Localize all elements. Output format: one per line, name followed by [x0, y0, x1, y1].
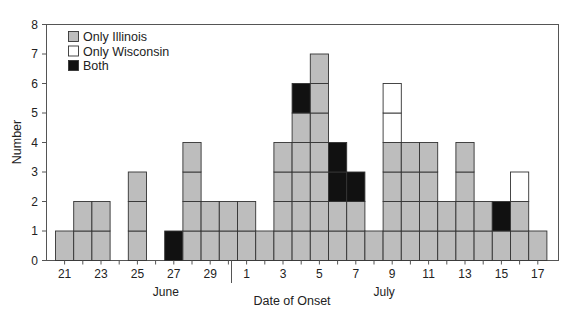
bar-cell-only-illinois [201, 231, 219, 261]
bar-cell-only-illinois [383, 143, 401, 173]
bar-cell-only-illinois [292, 113, 310, 143]
x-tick-label: 3 [280, 267, 287, 281]
bar-cell-only-illinois [274, 172, 292, 202]
y-tick-label: 6 [31, 77, 38, 91]
bar-cell-both [165, 231, 183, 261]
bar-cell-only-illinois [420, 143, 438, 173]
bar-cell-only-illinois [183, 172, 201, 202]
bar-cell-only-illinois [292, 172, 310, 202]
y-tick-label: 5 [31, 106, 38, 120]
bar-cell-both [347, 172, 365, 202]
bar-cell-only-illinois [420, 172, 438, 202]
bar-cell-only-illinois [365, 231, 383, 261]
y-tick-label: 3 [31, 165, 38, 179]
bar-cell-only-illinois [74, 231, 92, 261]
bar-cell-only-illinois [310, 143, 328, 173]
bar-cell-only-illinois [128, 202, 146, 232]
bar-cell-only-illinois [292, 231, 310, 261]
x-tick-label: 9 [389, 267, 396, 281]
bar-cell-only-illinois [401, 172, 419, 202]
bar-cell-only-illinois [219, 202, 237, 232]
legend-label: Both [83, 59, 109, 73]
bar-cell-only-illinois [474, 231, 492, 261]
legend-swatch [69, 32, 79, 42]
x-tick-label: 1 [243, 267, 250, 281]
bar-cell-only-illinois [511, 202, 529, 232]
y-tick-label: 0 [31, 254, 38, 268]
bar-cell-only-illinois [310, 231, 328, 261]
bar-cell-only-illinois [529, 231, 547, 261]
month-label: June [153, 285, 179, 299]
bar-cell-only-illinois [238, 202, 256, 232]
legend-swatch [69, 61, 79, 71]
bar-cell-only-illinois [438, 231, 456, 261]
bar-cell-only-illinois [201, 202, 219, 232]
bar-cell-only-illinois [401, 231, 419, 261]
x-tick-label: 13 [458, 267, 472, 281]
bar-cell-only-illinois [329, 231, 347, 261]
legend-label: Only Illinois [83, 30, 147, 44]
bar-cell-only-illinois [128, 172, 146, 202]
bars [56, 54, 547, 261]
legend: Only IllinoisOnly WisconsinBoth [69, 30, 170, 73]
y-tick-label: 7 [31, 47, 38, 61]
x-tick-label: 17 [531, 267, 545, 281]
legend-label: Only Wisconsin [83, 45, 169, 59]
bar-cell-only-illinois [511, 231, 529, 261]
bar-cell-only-illinois [456, 143, 474, 173]
bar-cell-only-illinois [383, 231, 401, 261]
bar-cell-only-illinois [92, 202, 110, 232]
bar-cell-only-illinois [256, 231, 274, 261]
bar-cell-only-illinois [128, 231, 146, 261]
bar-cell-only-illinois [347, 231, 365, 261]
bar-cell-both [292, 84, 310, 114]
bar-cell-only-illinois [420, 202, 438, 232]
y-tick-label: 1 [31, 224, 38, 238]
x-tick-label: 23 [94, 267, 108, 281]
y-tick-label: 4 [31, 136, 38, 150]
bar-cell-only-illinois [56, 231, 74, 261]
bar-cell-only-wisconsin [511, 172, 529, 202]
y-tick-label: 2 [31, 195, 38, 209]
bar-cell-only-illinois [310, 113, 328, 143]
x-tick-label: 25 [131, 267, 145, 281]
bar-cell-only-illinois [92, 231, 110, 261]
bar-cell-only-illinois [456, 172, 474, 202]
bar-cell-only-illinois [492, 231, 510, 261]
bar-cell-only-illinois [438, 202, 456, 232]
x-tick-label: 5 [316, 267, 323, 281]
bar-cell-both [329, 172, 347, 202]
bar-cell-only-illinois [347, 202, 365, 232]
bar-cell-only-illinois [274, 202, 292, 232]
bar-cell-only-illinois [310, 84, 328, 114]
bar-cell-only-wisconsin [383, 84, 401, 114]
x-tick-label: 15 [495, 267, 509, 281]
bar-cell-only-illinois [456, 231, 474, 261]
bar-cell-only-illinois [238, 231, 256, 261]
x-axis-title: Date of Onset [253, 294, 331, 308]
bar-cell-only-illinois [310, 202, 328, 232]
x-tick-label: 11 [422, 267, 435, 281]
bar-cell-only-illinois [183, 143, 201, 173]
bar-cell-only-illinois [292, 143, 310, 173]
bar-cell-only-illinois [310, 54, 328, 84]
bar-cell-only-illinois [183, 202, 201, 232]
x-tick-label: 27 [167, 267, 181, 281]
bar-cell-only-illinois [274, 143, 292, 173]
bar-cell-only-illinois [401, 143, 419, 173]
bar-cell-only-illinois [310, 172, 328, 202]
bar-cell-only-illinois [383, 172, 401, 202]
y-axis-title: Number [10, 120, 24, 164]
bar-cell-only-illinois [456, 202, 474, 232]
x-tick-label: 21 [58, 267, 72, 281]
bar-cell-only-illinois [274, 231, 292, 261]
y-axis: 012345678 [31, 18, 46, 268]
x-tick-label: 29 [204, 267, 218, 281]
bar-cell-only-illinois [383, 202, 401, 232]
bar-cell-only-illinois [219, 231, 237, 261]
legend-swatch [69, 46, 79, 56]
bar-cell-only-illinois [292, 202, 310, 232]
bar-cell-only-illinois [183, 231, 201, 261]
bar-cell-only-wisconsin [383, 113, 401, 143]
bar-cell-both [492, 202, 510, 232]
